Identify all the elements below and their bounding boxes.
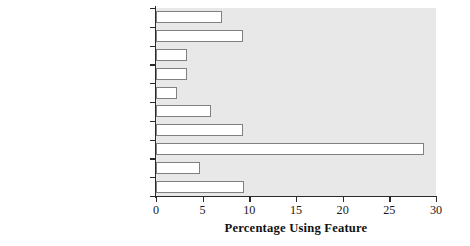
- y-axis-tick-mark: [150, 8, 156, 9]
- bar-chart: 051015202530 Percentage Using Feature: [0, 0, 470, 246]
- bar-row: [156, 27, 436, 46]
- bar: [156, 181, 244, 193]
- plot-area: [156, 8, 436, 196]
- bar: [156, 68, 187, 80]
- x-axis-tick-label: 15: [283, 203, 309, 218]
- y-axis-tick-mark: [150, 102, 156, 103]
- x-axis-tick-mark: [389, 197, 390, 202]
- x-axis-tick-label: 5: [190, 203, 216, 218]
- bar: [156, 105, 211, 117]
- x-axis-tick-label: 10: [236, 203, 262, 218]
- x-axis-tick-mark: [249, 197, 250, 202]
- y-axis-tick-mark: [150, 158, 156, 159]
- bar-row: [156, 64, 436, 83]
- bar: [156, 30, 243, 42]
- y-axis-tick-mark: [150, 64, 156, 65]
- x-axis-tick-label: 30: [423, 203, 449, 218]
- bar: [156, 87, 177, 99]
- bar-row: [156, 46, 436, 65]
- x-axis-tick-label: 25: [376, 203, 402, 218]
- bar-row: [156, 83, 436, 102]
- bar: [156, 49, 187, 61]
- bar: [156, 11, 222, 23]
- y-axis-tick-mark: [150, 140, 156, 141]
- bar-row: [156, 177, 436, 196]
- bar-row: [156, 102, 436, 121]
- y-axis-tick-mark: [150, 121, 156, 122]
- x-axis-tick-mark: [203, 197, 204, 202]
- y-axis-category-labels: [0, 8, 152, 196]
- x-axis-title: Percentage Using Feature: [156, 221, 436, 236]
- bar-row: [156, 8, 436, 27]
- bar: [156, 162, 200, 174]
- y-axis-tick-mark: [150, 177, 156, 178]
- x-axis-tick-mark: [343, 197, 344, 202]
- x-axis-tick-label: 20: [330, 203, 356, 218]
- x-axis-tick-mark: [436, 197, 437, 202]
- y-axis-tick-mark: [150, 83, 156, 84]
- bar-row: [156, 121, 436, 140]
- bar-row: [156, 140, 436, 159]
- bar: [156, 143, 424, 155]
- x-axis-tick-mark: [156, 197, 157, 202]
- bar-row: [156, 158, 436, 177]
- y-axis-tick-mark: [150, 27, 156, 28]
- y-axis-tick-mark: [150, 46, 156, 47]
- x-axis-tick-label: 0: [143, 203, 169, 218]
- x-axis-tick-mark: [296, 197, 297, 202]
- bar: [156, 124, 243, 136]
